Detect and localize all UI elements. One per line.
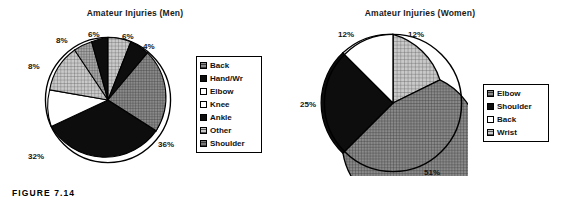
- pct-label-men-4: 4%: [143, 42, 155, 51]
- legend-label-w-back: Back: [497, 115, 516, 124]
- pct-label-men-8a: 8%: [56, 36, 68, 45]
- legend-label-other: Other: [210, 126, 231, 135]
- legend-label-elbow: Elbow: [210, 87, 234, 96]
- swatch-ankle-icon: [200, 114, 207, 121]
- pct-label-men-32: 32%: [28, 152, 44, 161]
- legend-label-knee: Knee: [210, 100, 230, 109]
- pct-label-men-8b: 8%: [28, 62, 40, 71]
- pct-label-women-51: 51%: [424, 168, 440, 177]
- legend-item-shoulder[interactable]: Shoulder: [200, 137, 257, 150]
- legend-label-w-wrist: Wrist: [497, 128, 517, 137]
- swatch-other-icon: [200, 127, 207, 134]
- legend-women: Elbow Shoulder Back Wrist: [483, 84, 549, 142]
- legend-label-w-elbow: Elbow: [497, 89, 521, 98]
- pie-chart-women: [318, 30, 468, 176]
- legend-item-w-shoulder[interactable]: Shoulder: [487, 100, 544, 113]
- pct-label-men-6a: 6%: [88, 30, 100, 39]
- legend-item-w-back[interactable]: Back: [487, 113, 544, 126]
- swatch-w-shoulder-icon: [487, 103, 494, 110]
- chart-title-women: Amateur Injuries (Women): [320, 8, 520, 18]
- swatch-w-wrist-icon: [487, 129, 494, 136]
- swatch-w-back-icon: [487, 116, 494, 123]
- pct-label-women-25: 25%: [300, 100, 316, 109]
- legend-item-other[interactable]: Other: [200, 124, 257, 137]
- legend-label-shoulder: Shoulder: [210, 139, 245, 148]
- swatch-shoulder-icon: [200, 140, 207, 147]
- pct-label-men-36: 36%: [158, 140, 174, 149]
- pct-label-women-12a: 12%: [338, 30, 354, 39]
- figure-container: Amateur Injuries (Men): [0, 0, 571, 210]
- legend-item-w-elbow[interactable]: Elbow: [487, 87, 544, 100]
- pct-label-women-12b: 12%: [408, 30, 424, 39]
- legend-item-w-wrist[interactable]: Wrist: [487, 126, 544, 139]
- pct-label-men-6b: 6%: [122, 32, 134, 41]
- swatch-knee-icon: [200, 101, 207, 108]
- legend-item-hand-wr[interactable]: Hand/Wr: [200, 72, 257, 85]
- swatch-back-icon: [200, 62, 207, 69]
- legend-label-back: Back: [210, 61, 229, 70]
- figure-caption: FIGURE 7.14: [12, 188, 75, 198]
- swatch-hand-wr-icon: [200, 75, 207, 82]
- swatch-elbow-icon: [200, 88, 207, 95]
- legend-item-ankle[interactable]: Ankle: [200, 111, 257, 124]
- legend-item-knee[interactable]: Knee: [200, 98, 257, 111]
- legend-label-w-shoulder: Shoulder: [497, 102, 532, 111]
- chart-title-men: Amateur Injuries (Men): [40, 8, 230, 18]
- legend-item-elbow[interactable]: Elbow: [200, 85, 257, 98]
- swatch-w-elbow-icon: [487, 90, 494, 97]
- legend-men: Back Hand/Wr Elbow Knee Ankle Other Shou…: [196, 56, 262, 153]
- legend-item-back[interactable]: Back: [200, 59, 257, 72]
- legend-label-hand-wr: Hand/Wr: [210, 74, 243, 83]
- legend-label-ankle: Ankle: [210, 113, 232, 122]
